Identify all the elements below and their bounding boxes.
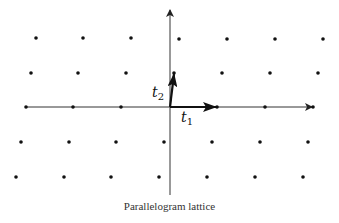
lattice-point [253,175,257,179]
lattice-point [210,140,214,144]
lattice-point [225,37,229,41]
lattice-point [258,140,262,144]
lattice-point [311,105,315,109]
lattice-point [24,105,28,109]
lattice-point [67,140,71,144]
lattice-point [34,36,38,40]
lattice-point [62,175,66,179]
lattice-point [71,105,75,109]
lattice-point [273,37,277,41]
lattice-point [129,36,133,40]
lattice-point [301,175,305,179]
lattice-point [124,71,128,75]
lattice-point [29,71,33,75]
lattice-point [220,71,224,75]
lattice-point [177,37,181,41]
lattice-point [119,105,123,109]
lattice-point [76,71,80,75]
lattice-point [162,140,166,144]
lattice-point [268,71,272,75]
lattice-point [205,175,209,179]
lattice-point [316,71,320,75]
lattice-point [114,140,118,144]
figure-caption: Parallelogram lattice [0,200,339,212]
lattice-point [263,105,267,109]
lattice-point [321,37,325,41]
label-t2: t2 [152,84,164,102]
lattice-point [109,175,113,179]
lattice-point [81,36,85,40]
lattice-point [157,175,161,179]
lattice-point [306,140,310,144]
lattice-point [14,175,18,179]
lattice-point [19,140,23,144]
label-t1: t1 [181,109,193,127]
lattice-diagram: t2 t1 [0,0,339,223]
